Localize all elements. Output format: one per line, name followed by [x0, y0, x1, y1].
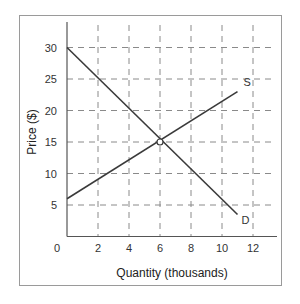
- x-tick-label: 12: [247, 242, 259, 254]
- x-tick-label: 2: [95, 242, 101, 254]
- x-axis-label: Quantity (thousands): [116, 266, 227, 280]
- demand-curve: [67, 48, 238, 215]
- y-tick-label: 10: [45, 168, 57, 180]
- supply-curve: [67, 92, 238, 199]
- x-tick-label: 0: [54, 242, 60, 254]
- y-tick-label: 20: [45, 105, 57, 117]
- y-axis-label: Price ($): [25, 109, 39, 154]
- x-tick-label: 8: [188, 242, 194, 254]
- y-tick-label: 15: [45, 136, 57, 148]
- x-tick-label: 6: [157, 242, 163, 254]
- x-tick-label: 10: [216, 242, 228, 254]
- demand-label: D: [242, 214, 250, 226]
- supply-demand-chart: 02468101251015202530DSQuantity (thousand…: [0, 0, 300, 304]
- supply-label: S: [244, 76, 251, 88]
- y-tick-label: 25: [45, 73, 57, 85]
- y-tick-label: 30: [45, 42, 57, 54]
- equilibrium-point-marker: [157, 139, 163, 145]
- x-tick-label: 4: [126, 242, 132, 254]
- y-tick-label: 5: [51, 199, 57, 211]
